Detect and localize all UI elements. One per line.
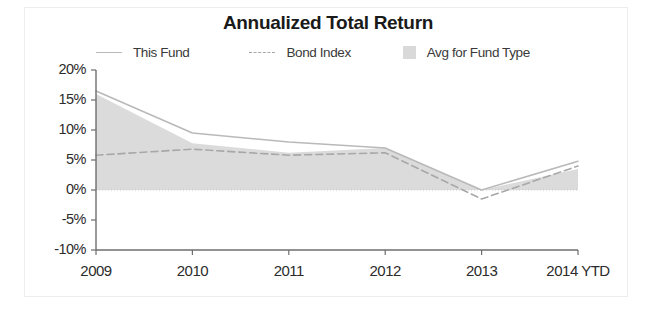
x-axis-tick-label: 2010 xyxy=(142,262,242,279)
x-axis-tick-label: 2009 xyxy=(46,262,146,279)
x-axis-tick-label: 2013 xyxy=(432,262,532,279)
series-area-avg-for-fund-type xyxy=(96,94,578,190)
y-axis-tick-label: -10% xyxy=(34,241,86,257)
x-axis-tick-label: 2014 YTD xyxy=(528,262,628,279)
y-axis-tick-label: 20% xyxy=(34,61,86,77)
y-axis-tick-label: -5% xyxy=(34,211,86,227)
y-axis-tick-label: 15% xyxy=(34,91,86,107)
y-axis-tick-label: 10% xyxy=(34,121,86,137)
y-axis-tick-label: 0% xyxy=(34,181,86,197)
y-axis-tick-label: 5% xyxy=(34,151,86,167)
x-axis-tick-label: 2012 xyxy=(335,262,435,279)
x-axis-tick-label: 2011 xyxy=(239,262,339,279)
chart-card: Annualized Total Return This Fund Bond I… xyxy=(0,0,656,312)
